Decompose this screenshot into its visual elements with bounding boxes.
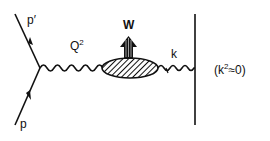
label-p: p bbox=[20, 118, 27, 130]
hadronic-blob bbox=[102, 58, 158, 78]
incoming-proton-line bbox=[15, 68, 40, 125]
label-w: W bbox=[123, 19, 134, 31]
condition-open: (k bbox=[214, 63, 224, 77]
label-q-exponent: 2 bbox=[79, 38, 83, 47]
real-photon-wavy-line bbox=[158, 66, 195, 71]
virtual-photon-wavy-line bbox=[40, 65, 103, 71]
condition-close: ≈0) bbox=[228, 63, 245, 77]
label-q: Q bbox=[70, 39, 79, 53]
label-k-squared-condition: (k2≈0) bbox=[214, 64, 246, 76]
label-p-prime: p′ bbox=[27, 14, 36, 26]
label-k: k bbox=[171, 48, 177, 60]
condition-exponent: 2 bbox=[224, 62, 228, 71]
label-q-squared: Q2 bbox=[70, 40, 84, 52]
